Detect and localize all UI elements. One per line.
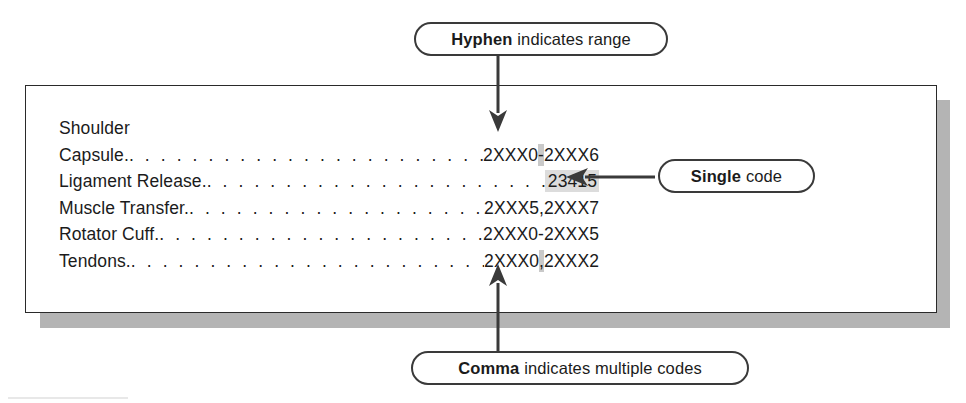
callout-hyphen[interactable]: Hyphenindicates range: [414, 22, 668, 56]
code-prefix: 2XXX0: [484, 251, 539, 271]
code-prefix: 2XXX0: [483, 145, 538, 165]
table-row: Ligament Release. . . . . . . . . . . . …: [59, 168, 599, 195]
code-suffix: 2XXX7: [544, 198, 599, 218]
code-list: Shoulder Capsule. . . . . . . . . . . . …: [59, 115, 599, 274]
list-heading: Shoulder: [59, 115, 599, 142]
code-prefix: 2XXX0: [483, 224, 538, 244]
callout-single-keyword: Single: [691, 167, 741, 186]
table-row: Rotator Cuff. . . . . . . . . . . . . . …: [59, 221, 599, 248]
row-code: 2XXX5,2XXX7: [484, 195, 599, 222]
callout-hyphen-keyword: Hyphen: [451, 30, 512, 49]
leader-dots: . . . . . . . . . . . . . . . . . . . . …: [131, 248, 484, 275]
table-row: Muscle Transfer. . . . . . . . . . . . .…: [59, 195, 599, 222]
callout-comma[interactable]: Commaindicates multiple codes: [411, 351, 749, 385]
code-suffix: 2XXX2: [544, 251, 599, 271]
row-code: 2XXX0-2XXX5: [483, 221, 599, 248]
row-label: Rotator Cuff.: [59, 221, 159, 248]
callout-single-code[interactable]: Singlecode: [658, 159, 815, 193]
table-row: Tendons. . . . . . . . . . . . . . . . .…: [59, 248, 599, 275]
code-suffix: 2XXX6: [544, 145, 599, 165]
row-label: Capsule.: [59, 142, 129, 169]
leader-dots: . . . . . . . . . . . . . . . . . . . . …: [129, 142, 483, 169]
callout-single-text: code: [746, 167, 782, 186]
code-value-highlighted: 23415: [545, 170, 599, 192]
row-label: Tendons.: [59, 248, 131, 275]
code-list-box: Shoulder Capsule. . . . . . . . . . . . …: [25, 85, 937, 313]
code-suffix: 2XXX5: [544, 224, 599, 244]
row-code: 2XXX0-2XXX6: [483, 142, 599, 169]
code-prefix: 2XXX5: [484, 198, 539, 218]
row-code: 2XXX0,2XXX2: [484, 248, 599, 275]
figure-root: Shoulder Capsule. . . . . . . . . . . . …: [0, 0, 966, 403]
row-code: 23415: [545, 168, 599, 195]
callout-comma-keyword: Comma: [458, 359, 519, 378]
table-row: Capsule. . . . . . . . . . . . . . . . .…: [59, 142, 599, 169]
callout-comma-text: indicates multiple codes: [524, 359, 702, 378]
row-label: Muscle Transfer.: [59, 195, 189, 222]
callout-hyphen-text: indicates range: [517, 30, 630, 49]
row-label: Ligament Release.: [59, 168, 207, 195]
leader-dots: . . . . . . . . . . . . . . . . . . . . …: [159, 221, 483, 248]
leader-dots: . . . . . . . . . . . . . . . . . . . . …: [207, 168, 545, 195]
leader-dots: . . . . . . . . . . . . . . . . . . . . …: [189, 195, 484, 222]
page-footer-rule: [8, 397, 128, 399]
